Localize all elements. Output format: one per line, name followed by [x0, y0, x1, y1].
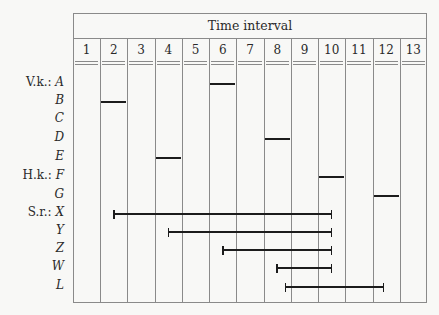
- row-label: V.k.: A: [0, 75, 64, 89]
- range-end-tick: [331, 228, 333, 237]
- column-divider: [400, 39, 401, 303]
- row-label: L: [0, 278, 64, 292]
- row-label: B: [0, 93, 64, 107]
- header-double-rule: [238, 61, 261, 65]
- range-end-tick: [331, 264, 333, 273]
- header-double-rule: [75, 61, 98, 65]
- column-header: 10: [318, 39, 345, 61]
- row-label: G: [0, 187, 64, 201]
- column-header: 9: [291, 39, 318, 61]
- column-divider: [209, 39, 210, 303]
- interval-bar-e: [156, 157, 181, 159]
- header-double-rule: [402, 61, 425, 65]
- row-letter: Y: [56, 223, 64, 237]
- column-divider: [345, 39, 346, 303]
- interval-bar-y: [168, 231, 331, 233]
- range-end-tick: [285, 283, 287, 292]
- row-label: Y: [0, 223, 64, 237]
- header-double-rule: [184, 61, 207, 65]
- row-letter: C: [55, 111, 64, 125]
- column-divider: [155, 39, 156, 303]
- row-letter: W: [52, 259, 64, 273]
- column-header: 13: [400, 39, 427, 61]
- column-header: 7: [236, 39, 263, 61]
- range-end-tick: [383, 283, 385, 292]
- row-label: E: [0, 149, 64, 163]
- header-double-rule: [211, 61, 234, 65]
- interval-bar-b: [101, 101, 126, 103]
- interval-bar-l: [285, 286, 383, 288]
- row-letter: B: [55, 93, 64, 107]
- row-label: S.r.: X: [0, 205, 64, 219]
- interval-bar-z: [223, 249, 332, 251]
- interval-bar-x: [114, 213, 332, 215]
- row-label: Z: [0, 241, 64, 255]
- header-double-rule: [129, 61, 152, 65]
- group-prefix: V.k.:: [26, 75, 55, 89]
- chart-title: Time interval: [73, 13, 427, 39]
- row-letter: Z: [56, 241, 64, 255]
- header-double-rule: [320, 61, 343, 65]
- header-double-rule: [102, 61, 125, 65]
- row-letter: X: [55, 205, 64, 219]
- range-end-tick: [276, 264, 278, 273]
- column-header: 4: [155, 39, 182, 61]
- column-divider: [100, 39, 101, 303]
- column-header: 1: [73, 39, 100, 61]
- interval-bar-f: [319, 176, 344, 178]
- column-divider: [236, 39, 237, 303]
- interval-bar-d: [265, 138, 290, 140]
- row-letter: A: [55, 75, 64, 89]
- column-divider: [373, 39, 374, 303]
- interval-bar-a: [210, 83, 235, 85]
- column-divider: [127, 39, 128, 303]
- interval-bar-w: [277, 267, 331, 269]
- column-header: 2: [100, 39, 127, 61]
- group-prefix: H.k.:: [22, 168, 55, 182]
- interval-bar-g: [374, 195, 399, 197]
- header-double-rule: [293, 61, 316, 65]
- column-divider: [318, 39, 319, 303]
- row-label: H.k.: F: [0, 168, 64, 182]
- row-letter: L: [56, 278, 64, 292]
- column-header: 12: [373, 39, 400, 61]
- column-header: 6: [209, 39, 236, 61]
- range-end-tick: [331, 246, 333, 255]
- range-end-tick: [113, 210, 115, 219]
- column-divider: [291, 39, 292, 303]
- row-label: C: [0, 111, 64, 125]
- column-header: 8: [264, 39, 291, 61]
- header-double-rule: [375, 61, 398, 65]
- column-header: 11: [345, 39, 372, 61]
- range-end-tick: [168, 228, 170, 237]
- column-divider: [264, 39, 265, 303]
- row-letter: E: [55, 149, 64, 163]
- range-end-tick: [331, 210, 333, 219]
- column-divider: [182, 39, 183, 303]
- group-prefix: S.r.:: [28, 205, 56, 219]
- header-double-rule: [157, 61, 180, 65]
- range-end-tick: [222, 246, 224, 255]
- row-label: D: [0, 130, 64, 144]
- column-header: 5: [182, 39, 209, 61]
- row-label: W: [0, 259, 64, 273]
- row-letter: G: [54, 187, 64, 201]
- row-letter: D: [54, 130, 64, 144]
- header-double-rule: [347, 61, 370, 65]
- header-double-rule: [266, 61, 289, 65]
- column-header: 3: [127, 39, 154, 61]
- row-letter: F: [56, 168, 64, 182]
